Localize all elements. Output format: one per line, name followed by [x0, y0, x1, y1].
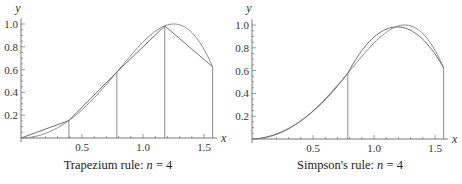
y-tick-label: 1.0	[4, 18, 18, 30]
y-tick-label: 0.2	[4, 109, 18, 121]
x-tick-label: 1.5	[428, 142, 442, 154]
y-tick-label: 0.4	[4, 86, 18, 98]
x-tick-label: 1.0	[367, 142, 381, 154]
x-tick-label: 1.5	[197, 141, 211, 153]
plots-canvas: 0.51.01.50.20.40.60.81.0xy 0.51.01.50.20…	[0, 0, 462, 184]
x-tick-label: 0.5	[306, 142, 320, 154]
y-tick-label: 0.8	[4, 41, 18, 53]
y-tick-label: 1.0	[235, 19, 249, 31]
y-tick-label: 0.6	[235, 65, 249, 77]
trapezium-caption: Trapezium rule: n = 4	[64, 158, 173, 173]
x-axis-label: x	[220, 131, 227, 145]
simpson-chart: 0.51.01.50.20.40.60.81.0xy	[235, 1, 458, 154]
y-tick-label: 0.2	[235, 110, 249, 122]
x-tick-label: 1.0	[136, 141, 150, 153]
y-tick-label: 0.6	[4, 64, 18, 76]
y-axis-label: y	[245, 1, 252, 15]
simpson-caption: Simpson's rule: n = 4	[297, 158, 403, 173]
trapezium-chart: 0.51.01.50.20.40.60.81.0xy	[4, 1, 227, 153]
y-axis-label: y	[14, 1, 21, 15]
y-tick-label: 0.4	[235, 87, 249, 99]
y-tick-label: 0.8	[235, 42, 249, 54]
x-axis-label: x	[451, 132, 458, 146]
x-tick-label: 0.5	[75, 141, 89, 153]
